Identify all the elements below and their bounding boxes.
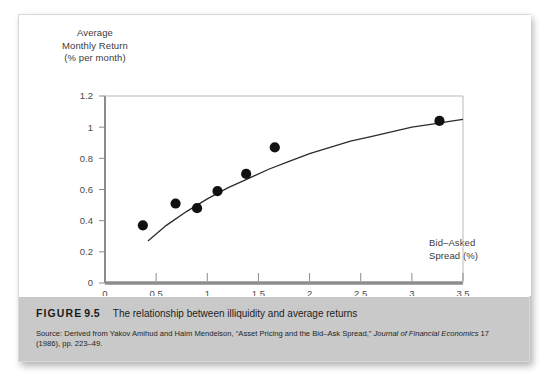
scatter-point [241,169,251,179]
y-tick-label: 0.2 [80,246,93,257]
figure-number: 9.5 [84,307,100,319]
y-tick-label: 1.2 [80,90,93,101]
figure-caption-row: FIGURE9.5The relationship between illiqu… [36,307,517,319]
fitted-trend-curve [148,119,463,241]
y-tick-label: 0 [88,277,93,288]
x-tick-label: 1 [205,288,210,296]
figure-card: Average Monthly Return (% per month) Bid… [18,14,530,362]
chart-svg: 00.20.40.60.811.2 00.511.522.533.5 [19,15,531,296]
figure-label-word: FIGURE [36,307,82,319]
scatter-point [170,198,180,208]
x-tick-label: 2.5 [354,288,367,296]
x-tick-label: 1.5 [252,288,265,296]
source-prefix: Source: [36,329,62,338]
scatter-point [270,142,280,152]
y-tick-label: 0.4 [80,215,93,226]
figure-screenshot: Average Monthly Return (% per month) Bid… [0,0,550,379]
scatter-point [192,203,202,213]
x-tick-label: 3 [409,288,414,296]
y-tick-label: 0.8 [80,153,93,164]
x-tick-label: 0.5 [150,288,163,296]
figure-source-note: Source: Derived from Yakov Amihud and Ha… [36,329,514,350]
y-tick-label: 0.6 [80,184,93,195]
chart-plot-area: Average Monthly Return (% per month) Bid… [19,15,531,296]
y-tick-label: 1 [88,122,93,133]
scatter-point [138,220,148,230]
source-text-part-1: Derived from Yakov Amihud and Haim Mende… [62,329,373,338]
x-tick-label: 3.5 [456,288,469,296]
x-tick-label: 2 [307,288,312,296]
source-journal-name: Journal of Financial Economics [373,329,478,338]
caption-top-rule [19,296,529,297]
y-axis-ticks: 00.20.40.60.811.2 [80,90,105,288]
figure-caption-text: The relationship between illiquidity and… [113,308,358,319]
x-tick-label: 0 [102,288,107,296]
figure-caption-band: FIGURE9.5The relationship between illiqu… [19,296,529,361]
scatter-point [434,116,444,126]
scatter-point [212,186,222,196]
